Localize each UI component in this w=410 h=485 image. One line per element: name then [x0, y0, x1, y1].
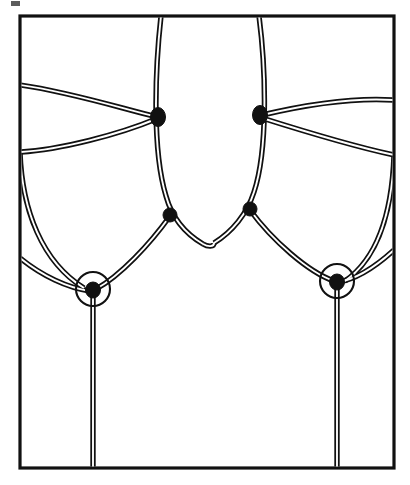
upper-right-vertex — [253, 106, 268, 125]
tangle-diagram — [0, 0, 410, 485]
lower-left-circled-vertex — [86, 282, 101, 298]
mid-right-vertex — [243, 202, 257, 216]
scan-artifact-group — [11, 1, 20, 6]
lower-right-circled-vertex — [330, 274, 345, 290]
scan-speck-top-left — [11, 1, 20, 6]
mid-left-vertex — [163, 208, 177, 222]
upper-left-vertex — [151, 108, 166, 127]
figure-root — [0, 0, 410, 485]
